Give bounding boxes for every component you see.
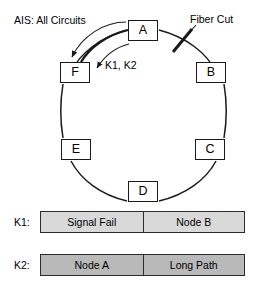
node-f[interactable]: F bbox=[60, 62, 90, 83]
k2-row-label: K2: bbox=[14, 259, 40, 271]
k1-row-label: K1: bbox=[14, 216, 40, 228]
segment-d-e bbox=[71, 161, 127, 201]
node-c-label: C bbox=[205, 143, 214, 156]
node-d[interactable]: D bbox=[128, 181, 158, 202]
k2-byte-bar[interactable]: Node A Long Path bbox=[40, 254, 245, 276]
node-f-label: F bbox=[71, 66, 79, 79]
k1-cell-signal-fail[interactable]: Signal Fail bbox=[41, 212, 143, 232]
node-e[interactable]: E bbox=[61, 139, 91, 160]
segment-b-c bbox=[224, 84, 226, 138]
k2-cell-node-a[interactable]: Node A bbox=[41, 255, 143, 275]
k-bytes-thick-arc bbox=[81, 30, 128, 62]
ais-annotation-label: AIS: All Circuits bbox=[14, 15, 86, 26]
fiber-cut-leader bbox=[188, 25, 196, 34]
ring-diagram-canvas: A B C D E F AIS: All Circuits Fiber Cut … bbox=[0, 0, 260, 289]
ais-arc-arrow bbox=[72, 22, 126, 57]
node-b[interactable]: B bbox=[196, 62, 226, 83]
k2-byte-row: K2: Node A Long Path bbox=[14, 254, 245, 276]
k2-cell-long-path[interactable]: Long Path bbox=[143, 255, 245, 275]
node-a[interactable]: A bbox=[128, 20, 158, 41]
k-bytes-arc-label: K1, K2 bbox=[105, 60, 137, 71]
fiber-cut-annotation-label: Fiber Cut bbox=[190, 14, 233, 25]
k1-byte-bar[interactable]: Signal Fail Node B bbox=[40, 211, 245, 233]
node-d-label: D bbox=[138, 185, 147, 198]
k1-cell-node-b[interactable]: Node B bbox=[143, 212, 245, 232]
k1-byte-row: K1: Signal Fail Node B bbox=[14, 211, 245, 233]
node-b-label: B bbox=[207, 66, 215, 79]
node-c[interactable]: C bbox=[195, 139, 225, 160]
segment-c-d bbox=[159, 161, 216, 201]
segment-e-f bbox=[61, 84, 63, 138]
node-a-label: A bbox=[139, 24, 147, 37]
node-e-label: E bbox=[72, 143, 80, 156]
